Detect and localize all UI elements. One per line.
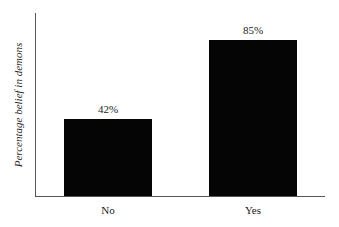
bar-value-label-no: 42% (98, 103, 118, 115)
y-axis-label: Percentage belief in demons (12, 43, 24, 168)
bar-yes (209, 40, 297, 196)
bar-no (64, 119, 152, 196)
y-axis-line (35, 13, 36, 197)
bar-value-label-yes: 85% (243, 24, 263, 36)
bar-chart: Percentage belief in demons 42% No 85% Y… (0, 0, 339, 227)
x-axis-line (35, 196, 325, 197)
x-tick-label-yes: Yes (245, 204, 261, 216)
x-tick-label-no: No (101, 204, 114, 216)
